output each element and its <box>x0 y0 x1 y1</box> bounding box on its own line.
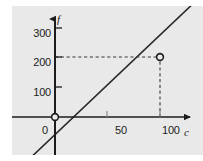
x-axis-tick-label-50: 50 <box>115 125 127 136</box>
origin-tick-label-0: 0 <box>42 125 48 136</box>
y-axis-tick-label-300: 300 <box>33 28 51 39</box>
plot-panel: 300 200 100 0 50 100 f c <box>12 6 203 155</box>
y-axis-label: f <box>57 14 60 25</box>
figure-container: 300 200 100 0 50 100 f c <box>0 0 203 161</box>
y-intercept-point-marker <box>52 114 59 121</box>
x-axis-label: c <box>184 127 189 138</box>
y-axis-tick-label-100: 100 <box>33 87 51 98</box>
x-axis-tick-label-100: 100 <box>162 125 180 136</box>
highlighted-point-marker <box>157 54 164 61</box>
y-axis-tick-label-200: 200 <box>33 57 51 68</box>
